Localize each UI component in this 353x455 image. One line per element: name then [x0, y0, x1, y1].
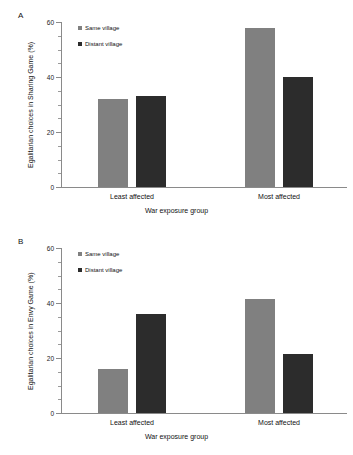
- y-axis-line-b: [61, 248, 62, 413]
- legend-swatch-icon-same-village-a: [78, 26, 82, 30]
- y-axis-tick-label-a: 40: [14, 74, 54, 81]
- y-axis-minor-tick-a: [58, 146, 61, 147]
- y-axis-minor-tick-a: [58, 118, 61, 119]
- y-axis-minor-tick-a: [58, 173, 61, 174]
- y-axis-tick-label-b: 40: [14, 300, 54, 307]
- bar-a-least-affected-same-village: [98, 99, 128, 187]
- y-axis-minor-tick-b: [58, 331, 61, 332]
- y-axis-minor-tick-b: [58, 372, 61, 373]
- legend-item-same-village-b: Same village: [78, 248, 122, 259]
- y-axis-minor-tick-a: [58, 105, 61, 106]
- bar-b-least-affected-distant-village: [136, 314, 166, 413]
- x-axis-title-a: War exposure group: [0, 207, 353, 214]
- legend-item-distant-village-b: Distant village: [78, 264, 122, 275]
- y-axis-minor-tick-b: [58, 276, 61, 277]
- y-axis-minor-tick-b: [58, 399, 61, 400]
- legend-a: Same village Distant village: [78, 22, 122, 54]
- y-axis-tick-b: [56, 248, 61, 249]
- x-axis-category-label-a: Least affected: [110, 193, 154, 200]
- legend-label-same-village-a: Same village: [85, 25, 119, 31]
- bar-a-most-affected-same-village: [245, 28, 275, 188]
- y-axis-minor-tick-b: [58, 262, 61, 263]
- y-axis-minor-tick-a: [58, 63, 61, 64]
- y-axis-minor-tick-a: [58, 50, 61, 51]
- legend-b: Same village Distant village: [78, 248, 122, 280]
- y-axis-tick-b: [56, 358, 61, 359]
- legend-label-distant-village-a: Distant village: [85, 41, 122, 47]
- y-axis-tick-label-b: 20: [14, 355, 54, 362]
- y-axis-minor-tick-a: [58, 36, 61, 37]
- x-axis-line-a: [61, 187, 347, 188]
- y-axis-minor-tick-b: [58, 386, 61, 387]
- y-axis-minor-tick-a: [58, 160, 61, 161]
- y-axis-line-a: [61, 22, 62, 187]
- y-axis-tick-b: [56, 413, 61, 414]
- y-axis-minor-tick-b: [58, 289, 61, 290]
- legend-label-distant-village-b: Distant village: [85, 267, 122, 273]
- bar-a-least-affected-distant-village: [136, 96, 166, 187]
- legend-item-distant-village-a: Distant village: [78, 38, 122, 49]
- bar-b-least-affected-same-village: [98, 369, 128, 413]
- y-axis-tick-a: [56, 77, 61, 78]
- y-axis-tick-label-a: 60: [14, 19, 54, 26]
- y-axis-tick-label-b: 0: [14, 410, 54, 417]
- legend-swatch-icon-distant-village-b: [78, 268, 82, 272]
- y-axis-tick-a: [56, 187, 61, 188]
- bar-a-most-affected-distant-village: [283, 77, 313, 187]
- legend-label-same-village-b: Same village: [85, 251, 119, 257]
- y-axis-tick-label-b: 60: [14, 245, 54, 252]
- y-axis-tick-label-a: 0: [14, 184, 54, 191]
- legend-item-same-village-a: Same village: [78, 22, 122, 33]
- x-axis-category-label-a: Most affected: [258, 193, 300, 200]
- x-axis-title-b: War exposure group: [0, 433, 353, 440]
- y-axis-tick-label-a: 20: [14, 129, 54, 136]
- bar-b-most-affected-same-village: [245, 299, 275, 413]
- y-axis-minor-tick-b: [58, 344, 61, 345]
- y-axis-title-a: Egalitarian choices in Sharing Game (%): [27, 41, 34, 167]
- panel-a: A Egalitarian choices in Sharing Game (%…: [0, 0, 353, 225]
- legend-swatch-icon-distant-village-a: [78, 42, 82, 46]
- y-axis-minor-tick-a: [58, 91, 61, 92]
- figure-bar-charts: A Egalitarian choices in Sharing Game (%…: [0, 0, 353, 455]
- bar-b-most-affected-distant-village: [283, 354, 313, 413]
- x-axis-category-label-b: Most affected: [258, 419, 300, 426]
- y-axis-tick-a: [56, 22, 61, 23]
- y-axis-title-b: Egalitarian choices in Envy Game (%): [27, 272, 34, 390]
- y-axis-minor-tick-b: [58, 317, 61, 318]
- panel-b: B Egalitarian choices in Envy Game (%) 0…: [0, 226, 353, 451]
- y-axis-tick-a: [56, 132, 61, 133]
- x-axis-line-b: [61, 413, 347, 414]
- x-axis-category-label-b: Least affected: [110, 419, 154, 426]
- legend-swatch-icon-same-village-b: [78, 252, 82, 256]
- y-axis-tick-b: [56, 303, 61, 304]
